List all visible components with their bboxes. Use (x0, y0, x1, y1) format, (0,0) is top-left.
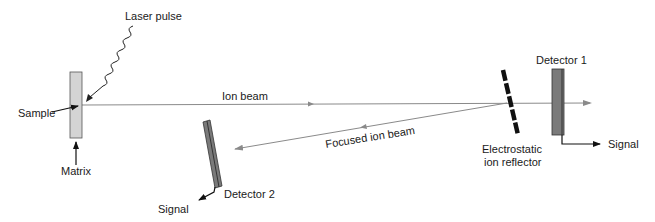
detector-1 (552, 69, 600, 144)
maldi-tof-diagram: Laser pulse Sample Matrix Ion beam Focus… (0, 0, 655, 222)
ion-beam-end-arrow (583, 100, 592, 106)
sample-label: Sample (18, 107, 55, 119)
signal-1-label: Signal (608, 138, 639, 150)
ion-beam-direction-arrow (308, 102, 314, 107)
sample-plate (70, 72, 82, 138)
focused-beam-direction-arrow (360, 124, 367, 129)
ion-beam-label: Ion beam (222, 90, 268, 102)
detector-1-label: Detector 1 (536, 54, 587, 66)
detector-2-label: Detector 2 (224, 188, 275, 200)
signal-2-label: Signal (158, 203, 189, 215)
laser-pulse-icon (86, 26, 133, 102)
focused-ion-beam-label: Focused ion beam (324, 124, 415, 150)
electrostatic-ion-reflector (503, 70, 518, 135)
reflector-label-line2: ion reflector (484, 156, 542, 168)
detector-2-signal-wire (199, 187, 215, 200)
ion-beam (82, 100, 592, 107)
detector-1-signal-wire (562, 135, 600, 144)
reflector-label-line1: Electrostatic (482, 143, 542, 155)
laser-pulse-label: Laser pulse (125, 10, 182, 22)
detector-2 (199, 120, 222, 200)
matrix-label: Matrix (61, 165, 91, 177)
